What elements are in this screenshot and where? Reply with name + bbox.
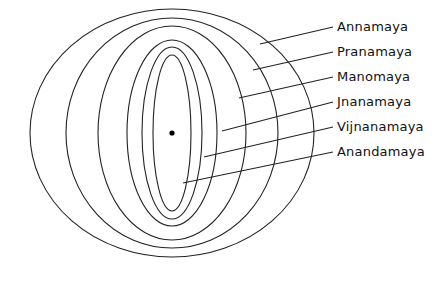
kosha-diagram: Annamaya Pranamaya Manomaya Jnanamaya Vi… <box>0 0 444 282</box>
diagram-drawing <box>0 0 444 282</box>
label-annamaya: Annamaya <box>337 20 408 34</box>
label-jnanamaya: Jnanamaya <box>337 95 411 109</box>
leader-annamaya <box>260 27 333 44</box>
label-manomaya: Manomaya <box>337 70 410 84</box>
center-dot <box>169 130 174 135</box>
label-anandamaya: Anandamaya <box>337 145 425 159</box>
label-vijnanamaya: Vijnanamaya <box>337 120 424 134</box>
leader-manomaya <box>239 77 333 98</box>
label-pranamaya: Pranamaya <box>337 45 412 59</box>
